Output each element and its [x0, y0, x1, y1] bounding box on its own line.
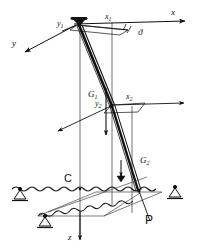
point-label-c: C [64, 172, 72, 184]
point-p-marker [137, 189, 140, 192]
axis-label-x1: x1 [104, 12, 112, 22]
ground-plane-hatching [12, 187, 156, 218]
axis-label-x2: x2 [125, 92, 133, 102]
pin-support-right [167, 185, 183, 198]
lower-boom-segment [110, 106, 141, 191]
base-plane-outline [38, 177, 162, 216]
boom-foot-joint [117, 176, 125, 182]
axis-label-z: z [67, 232, 72, 242]
point-label-p: P [145, 213, 153, 227]
point-c-marker [79, 188, 82, 191]
force-label-g1: G1 [88, 89, 98, 100]
axis-label-x: x [170, 7, 175, 17]
diagram-svg: x y z x1 y1 ϑ [0, 0, 201, 249]
axis-label-y1: y1 [56, 19, 64, 29]
theta-angle-label: ϑ [138, 27, 143, 37]
force-label-g2: G2 [140, 155, 150, 166]
figure-canvas: x y z x1 y1 ϑ [0, 0, 201, 249]
global-y-axis [25, 25, 76, 52]
axis-label-y: y [11, 38, 16, 48]
axis-label-y2: y2 [94, 99, 102, 109]
local-frame-1 [62, 24, 131, 35]
global-x-axis [74, 21, 185, 24]
pin-support-left [12, 187, 28, 200]
